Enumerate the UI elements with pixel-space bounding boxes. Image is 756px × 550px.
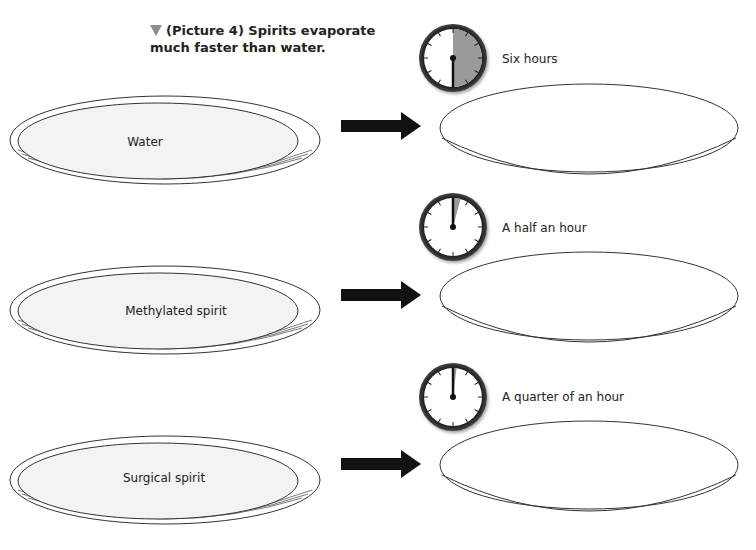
arrow-icon — [341, 281, 421, 309]
clock-icon-quarter-hour — [419, 363, 487, 431]
arrow-icon — [341, 450, 421, 478]
time-label-water: Six hours — [502, 52, 558, 66]
time-label-surgical-spirit: A quarter of an hour — [502, 390, 624, 404]
evaporation-diagram — [0, 0, 756, 550]
time-label-methylated-spirit: A half an hour — [502, 221, 587, 235]
row-methylated-spirit — [10, 193, 738, 354]
liquid-label-surgical-spirit: Surgical spirit — [123, 471, 205, 485]
liquid-label-methylated-spirit: Methylated spirit — [125, 304, 227, 318]
empty-dish-methylated-spirit — [440, 252, 738, 342]
row-surgical-spirit — [10, 363, 738, 524]
clock-icon-six-hours — [419, 24, 487, 92]
row-water — [10, 24, 738, 184]
empty-dish-water — [440, 84, 738, 174]
empty-dish-surgical-spirit — [440, 421, 738, 511]
arrow-icon — [341, 112, 421, 140]
clock-icon-half-hour — [419, 193, 487, 261]
full-dish-water — [10, 96, 320, 184]
liquid-label-water: Water — [127, 135, 162, 149]
